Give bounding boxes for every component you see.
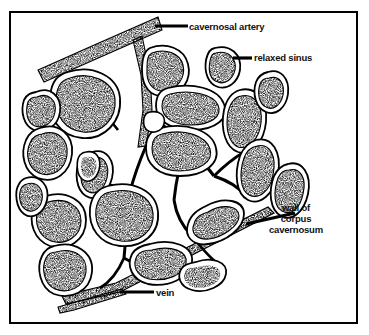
anatomy-figure: cavernosal artery relaxed sinus wall of …: [0, 0, 369, 335]
relaxed-sinus: [156, 86, 225, 130]
relaxed-sinus: [146, 126, 217, 176]
relaxed-sinus: [39, 244, 92, 295]
relaxed-sinus: [23, 126, 72, 179]
relaxed-sinus: [22, 90, 60, 131]
label-wall-line-2: corpus: [264, 213, 328, 224]
label-wall-of-corpus-cavernosum: wall of corpus cavernosum: [264, 202, 328, 235]
relaxed-sinus: [16, 177, 47, 216]
relaxed-sinus: [254, 71, 288, 113]
label-relaxed-sinus: relaxed sinus: [254, 52, 312, 63]
label-wall-line-1: wall of: [264, 202, 328, 213]
label-wall-line-3: cavernosum: [264, 224, 328, 235]
label-vein: vein: [156, 287, 174, 298]
relaxed-sinus: [90, 184, 158, 246]
anatomy-illustration: [0, 0, 369, 335]
relaxed-sinus: [179, 260, 226, 291]
label-cavernosal-artery: cavernosal artery: [189, 21, 264, 32]
relaxed-sinus-labeled: [206, 47, 241, 88]
relaxed-sinus: [77, 152, 100, 181]
relaxed-sinus: [144, 112, 165, 132]
relaxed-sinus-group: [16, 46, 309, 296]
relaxed-sinus: [187, 200, 244, 244]
